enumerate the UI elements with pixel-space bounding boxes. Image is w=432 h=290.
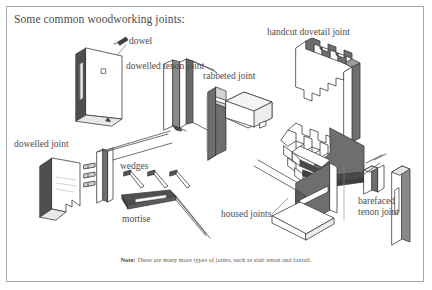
footnote: Note: There are many more types of joint… bbox=[0, 256, 432, 263]
label-handcut-dovetail-joint: handcut dovetail joint bbox=[267, 27, 350, 38]
label-rabbeted-joint: rabbeted joint bbox=[203, 71, 256, 82]
footnote-text: There are many more types of joints, suc… bbox=[135, 256, 311, 263]
label-barefaced-line1: barefaced bbox=[358, 196, 395, 206]
label-barefaced-tenon-joint: barefacedtenon joint bbox=[358, 196, 399, 217]
label-housed-joints: housed joints bbox=[221, 209, 271, 220]
label-barefaced-line2: tenon joint bbox=[358, 207, 399, 218]
label-wedges: wedges bbox=[120, 161, 149, 172]
label-dowelled-joint: dowelled joint bbox=[14, 139, 69, 150]
footnote-prefix: Note: bbox=[121, 256, 136, 263]
label-dowel: dowel bbox=[129, 36, 152, 47]
illustration-page: Some common woodworking joints: bbox=[0, 0, 432, 290]
label-dowelled-tenon-joint: dowelled tenon joint bbox=[126, 61, 204, 72]
label-mortise: mortise bbox=[122, 214, 151, 225]
page-title: Some common woodworking joints: bbox=[14, 13, 185, 26]
